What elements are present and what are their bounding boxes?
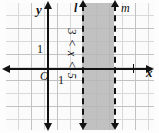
boundary-line-m-up-arrow-icon bbox=[111, 0, 119, 7]
y-axis-label: y bbox=[36, 3, 42, 16]
y-axis-down-arrow-icon bbox=[44, 123, 52, 131]
inequality-label: 3 < x < 5 bbox=[65, 26, 79, 82]
graph-grid-minor bbox=[6, 3, 154, 130]
y-axis-up-arrow-icon bbox=[44, 1, 52, 9]
y-axis-unit-label: 1 bbox=[37, 43, 43, 55]
line-label-l: l bbox=[74, 2, 77, 14]
boundary-line-l-up-arrow-icon bbox=[79, 0, 87, 7]
x-axis-label: x bbox=[146, 66, 153, 79]
boundary-line-l bbox=[82, 5, 84, 125]
x-axis-unit-label: 1 bbox=[58, 74, 64, 86]
boundary-line-m-down-arrow-icon bbox=[111, 123, 119, 130]
x-axis-left-arrow-icon bbox=[2, 65, 10, 73]
boundary-line-m bbox=[114, 5, 116, 125]
x-axis-tick-mark bbox=[133, 64, 134, 73]
line-label-m: m bbox=[121, 2, 130, 14]
y-axis bbox=[47, 5, 49, 128]
coordinate-graph-figure: y x O 1 1 l m 3 < x < 5 bbox=[0, 0, 159, 133]
shaded-solution-region bbox=[82, 3, 114, 130]
origin-label: O bbox=[40, 70, 49, 82]
boundary-line-l-down-arrow-icon bbox=[79, 123, 87, 130]
